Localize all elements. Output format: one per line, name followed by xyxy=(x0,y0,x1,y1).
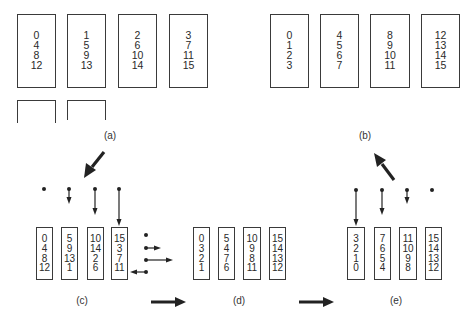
panel-c-column-1: 5 9 13 1 xyxy=(61,227,78,280)
panel-c-column-0: 0 4 8 12 xyxy=(36,227,53,280)
panel-b-column-3: 12 13 14 15 xyxy=(421,14,460,88)
cell: 15 xyxy=(435,61,447,71)
cell: 1 xyxy=(199,263,205,273)
panel-a-label: (a) xyxy=(104,130,116,141)
flow-arrow-e-to-b-icon xyxy=(374,153,394,180)
cell: 13 xyxy=(81,61,93,71)
panel-a-column-0: 0 4 8 12 xyxy=(17,14,56,88)
panel-b-column-2: 8 9 10 11 xyxy=(370,14,410,88)
panel-c-column-3: 15 3 7 11 xyxy=(111,227,128,280)
panel-a-empty-buffer-0 xyxy=(17,100,56,123)
cell: 12 xyxy=(428,263,439,273)
panel-c-vertical-shifts xyxy=(42,187,122,226)
cell: 11 xyxy=(247,263,257,273)
cell: 6 xyxy=(224,263,230,273)
panel-d-column-1: 5 4 7 6 xyxy=(218,227,235,280)
cell: 12 xyxy=(272,263,283,273)
flow-arrow-c-to-d-icon xyxy=(151,297,186,307)
cell: 4 xyxy=(380,263,386,273)
cell: 1 xyxy=(67,263,73,273)
panel-c-horizontal-shifts xyxy=(130,233,173,275)
panel-d-label: (d) xyxy=(233,295,245,306)
cell: 6 xyxy=(93,263,99,273)
panel-c-column-2: 10 14 2 6 xyxy=(87,227,104,280)
panel-d-column-2: 10 9 8 11 xyxy=(243,227,261,280)
cell: 0 xyxy=(353,263,359,273)
panel-c-label: (c) xyxy=(76,295,88,306)
cell: 11 xyxy=(385,61,396,71)
panel-e-label: (e) xyxy=(390,295,402,306)
panel-e-column-2: 11 10 9 8 xyxy=(399,227,417,280)
panel-d-column-0: 0 3 2 1 xyxy=(193,227,210,280)
panel-a-column-3: 3 7 11 15 xyxy=(169,14,208,88)
flow-arrow-a-to-c-icon xyxy=(84,152,104,178)
panel-b-column-0: 0 1 2 3 xyxy=(270,14,309,88)
panel-a-column-2: 2 6 10 14 xyxy=(118,14,157,88)
panel-e-column-1: 7 6 5 4 xyxy=(374,227,391,280)
cell: 15 xyxy=(183,61,195,71)
flow-arrow-d-to-e-icon xyxy=(299,297,334,307)
panel-e-vertical-shifts xyxy=(354,188,435,226)
cell: 8 xyxy=(405,263,411,273)
panel-e-column-0: 3 2 1 0 xyxy=(347,227,365,280)
cell: 14 xyxy=(132,61,144,71)
panel-b-column-1: 4 5 6 7 xyxy=(320,14,359,88)
panel-a-column-1: 1 5 9 13 xyxy=(67,14,106,88)
cell: 3 xyxy=(287,61,293,71)
dot-icon xyxy=(42,187,46,191)
cell: 12 xyxy=(31,61,43,71)
panel-d-column-3: 15 14 13 12 xyxy=(269,227,286,280)
panel-b-label: (b) xyxy=(359,130,371,141)
cell: 12 xyxy=(39,263,50,273)
panel-a-empty-buffer-1 xyxy=(67,100,106,120)
cell: 7 xyxy=(337,61,343,71)
cell: 11 xyxy=(114,263,124,273)
panel-e-column-3: 15 14 13 12 xyxy=(425,227,442,280)
